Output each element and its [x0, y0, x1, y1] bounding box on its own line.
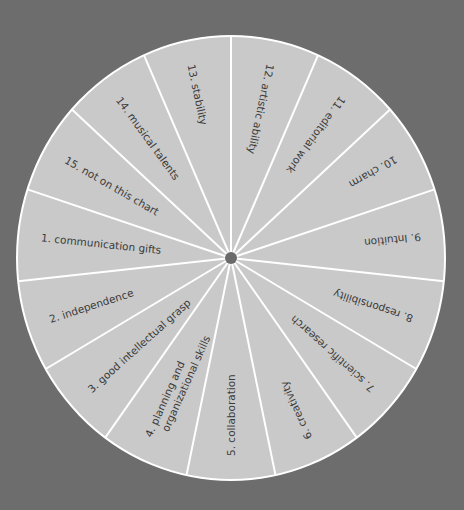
slice-label-text: 5. collaboration	[225, 374, 237, 456]
slice-label-5: 5. collaboration	[225, 374, 237, 456]
center-hub	[225, 252, 237, 264]
skills-wheel: 1. communication gifts2. independence3. …	[0, 0, 464, 510]
